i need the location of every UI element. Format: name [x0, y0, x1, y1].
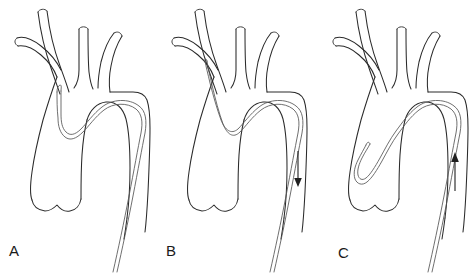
left-common-carotid-b-right — [245, 29, 250, 89]
right-subclavian-artery-b-cap — [172, 38, 175, 46]
right-subclavian-artery-c-lower — [336, 46, 375, 77]
left-common-carotid-c-right — [406, 29, 411, 89]
catheter-shaft-b-outer — [207, 61, 299, 272]
aortic-arch-figure: A B C — [0, 0, 473, 277]
left-subclavian-artery-a-right — [109, 36, 122, 92]
right-subclavian-artery-b-lower — [175, 46, 214, 77]
catheter-shaft-c-outer — [354, 104, 457, 272]
right-common-carotid-c-cap — [356, 9, 365, 12]
right-subclavian-artery-a-lower — [18, 46, 57, 77]
figure-container: A B C — [0, 0, 473, 277]
aortic-root-a — [32, 199, 81, 211]
left-common-carotid-a-right — [88, 29, 93, 89]
aortic-arch-inner-curve-b — [244, 102, 287, 218]
right-subclavian-artery-a-cap — [15, 38, 18, 46]
catheter-shaft-b-inner — [205, 61, 303, 272]
caption-fragment — [0, 268, 473, 277]
left-common-carotid-a-cap — [79, 27, 88, 29]
left-subclavian-artery-c-right — [427, 36, 440, 92]
panel-label-c: C — [338, 244, 349, 261]
panel-a-group — [15, 9, 150, 272]
right-common-carotid-c-right — [365, 11, 387, 92]
catheter-shaft-a-outer — [57, 92, 142, 272]
aortic-arch-inner-curve-c — [405, 102, 448, 218]
ascending-aorta-inner-wall-b — [238, 120, 244, 199]
panel-label-a: A — [9, 242, 19, 259]
right-subclavian-artery-c-cap — [333, 38, 336, 46]
left-subclavian-artery-a-cap — [114, 32, 122, 36]
right-common-carotid-a-cap — [38, 9, 47, 12]
ascending-aorta-inner-wall-a — [81, 120, 87, 199]
left-common-carotid-c — [392, 29, 397, 88]
left-subclavian-artery-b-cap — [271, 32, 279, 36]
descending-aorta-left-wall-c — [442, 218, 445, 239]
left-subclavian-artery-b-right — [266, 36, 279, 92]
panel-c-group — [333, 9, 468, 272]
ascending-aorta-outer-wall-a — [31, 77, 58, 200]
left-subclavian-artery-c-cap — [432, 32, 440, 36]
flow-arrow-down-b-head — [294, 178, 302, 187]
left-common-carotid-c-cap — [397, 27, 406, 29]
panel-b-group — [172, 9, 307, 272]
left-subclavian-artery-c — [416, 33, 432, 88]
left-common-carotid-b-cap — [236, 27, 245, 29]
left-common-carotid-a — [74, 29, 79, 88]
ascending-aorta-outer-wall-b — [188, 77, 215, 200]
right-common-carotid-b-cap — [195, 9, 204, 12]
aortic-root-b — [189, 199, 238, 211]
right-common-carotid-a-right — [47, 11, 69, 92]
aortic-root-c — [350, 199, 399, 211]
left-subclavian-artery-a — [98, 33, 114, 88]
catheter-shaft-a-inner — [61, 91, 146, 272]
aortic-arch-inner-curve-a — [87, 102, 130, 218]
right-common-carotid-b-right — [204, 11, 226, 92]
ascending-aorta-outer-wall-c — [349, 77, 376, 200]
left-subclavian-artery-b — [255, 33, 271, 88]
left-common-carotid-b — [231, 29, 236, 88]
panel-label-b: B — [166, 242, 176, 259]
